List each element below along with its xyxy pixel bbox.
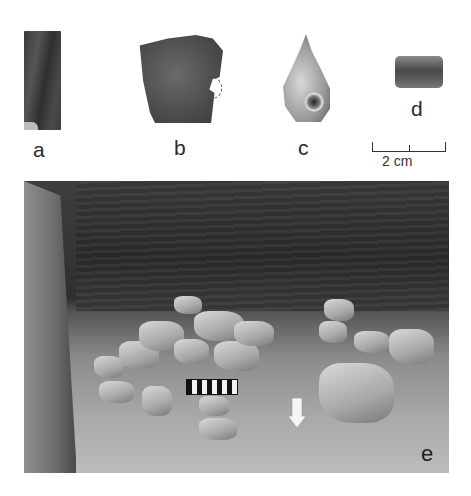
scale-tick [445,142,446,152]
shell-aperture [304,92,324,112]
stone [199,418,237,440]
stone [199,396,229,416]
stone [319,321,347,343]
panel-label-e: e [421,441,433,467]
scale-bar [372,141,446,152]
scale-label: 2 cm [382,153,412,169]
stone [324,299,354,321]
excavation-photo [24,181,449,473]
north-arrow-icon [288,398,306,428]
perforation-outline [209,77,222,99]
large-stone [319,363,394,423]
stone [354,331,389,353]
panel-label-a: a [33,139,45,160]
stone [234,321,274,346]
panel-label-d: d [411,98,423,119]
stone [142,386,172,416]
photo-scale-bar [186,379,238,395]
trench-back-wall [76,181,449,311]
stone [99,381,134,403]
bead-d-image [395,56,443,88]
stone [174,339,209,364]
stone [389,329,434,364]
panel-label-b: b [174,137,186,158]
trench-left-wall [24,181,76,473]
scale-tick [409,145,410,152]
panel-label-c: c [298,137,309,158]
stone [174,296,202,314]
scale-tick [372,142,373,152]
artifact-a-image [24,31,61,130]
